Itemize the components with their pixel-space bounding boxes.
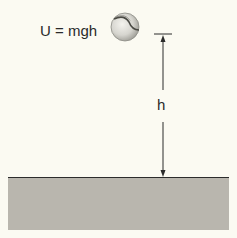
potential-energy-formula: U = mgh (40, 22, 97, 39)
arrow-down-icon (161, 122, 166, 177)
ground (8, 177, 229, 230)
potential-energy-diagram: U = mgh h (0, 0, 237, 238)
ball-icon (111, 13, 139, 41)
height-label: h (157, 96, 165, 113)
diagram-graphics (0, 0, 237, 238)
arrow-up-icon (161, 35, 166, 90)
